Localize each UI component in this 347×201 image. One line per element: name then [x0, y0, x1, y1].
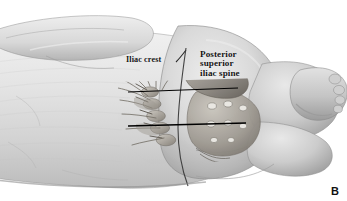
label-iliac-crest: Iliac crest	[126, 56, 161, 64]
illustration-canvas	[0, 0, 347, 201]
label-posterior-superior-iliac-spine: Posterior superior iliac spine	[200, 50, 240, 78]
figure-panel-b: Iliac crest Posterior superior iliac spi…	[0, 0, 347, 201]
panel-letter-label: B	[331, 185, 339, 197]
psis-label-line-3: iliac spine	[200, 69, 240, 78]
